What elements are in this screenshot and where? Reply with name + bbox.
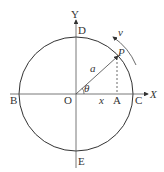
label-radius-a: a [90,62,96,74]
label-v: v [118,26,123,38]
circle-motion-diagram: Y X D E B C O A P a x θ v [0,0,164,172]
label-b: B [10,94,17,106]
label-e: E [78,155,85,167]
label-p: P [117,46,125,58]
diagram-canvas: Y X D E B C O A P a x θ v [0,0,164,172]
label-a-point: A [113,94,121,106]
label-theta: θ [84,82,90,94]
label-x: x [98,94,104,106]
label-d: D [78,24,86,36]
label-c: C [135,94,142,106]
label-y-axis: Y [71,8,79,20]
label-x-axis: X [149,88,158,100]
label-o: O [64,94,72,106]
